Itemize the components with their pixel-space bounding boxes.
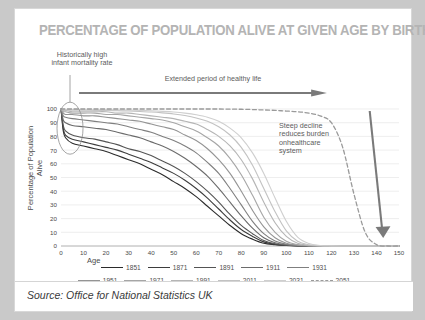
annotation-steep-decline: Steep decline reduces burden onhealthcar…	[279, 122, 341, 155]
legend-swatch	[148, 267, 170, 268]
legend-label: 1871	[173, 264, 188, 271]
y-axis-tick: 10	[50, 229, 57, 236]
y-axis-tick: 100	[47, 105, 58, 112]
screenshot-root: PERCENTAGE OF POPULATION ALIVE AT GIVEN …	[0, 0, 425, 320]
x-axis-tick: 0	[59, 249, 63, 256]
legend-swatch	[101, 267, 123, 268]
x-axis-tick: 20	[103, 249, 110, 256]
legend-item-1911[interactable]: 1911	[241, 264, 280, 271]
y-axis-tick: 70	[50, 147, 57, 154]
x-axis-tick: 90	[260, 249, 267, 256]
legend-row: 18511871189119111931	[15, 261, 413, 274]
legend-label: 1931	[312, 264, 327, 271]
y-axis-label: Percentage of Population Alive	[26, 120, 44, 216]
x-axis-tick: 40	[148, 249, 155, 256]
legend-item-1851[interactable]: 1851	[101, 264, 141, 271]
legend-swatch	[241, 267, 263, 268]
x-axis-tick: 140	[371, 249, 382, 256]
legend-swatch	[287, 267, 309, 268]
legend-item-1891[interactable]: 1891	[194, 264, 234, 271]
x-axis-tick: 150	[394, 249, 405, 256]
y-axis-tick: 50	[50, 174, 57, 181]
legend-swatch	[194, 267, 216, 268]
x-axis-tick: 70	[215, 249, 222, 256]
x-axis-tick: 120	[326, 249, 337, 256]
y-axis-tick: 0	[54, 242, 58, 249]
x-axis-tick: 10	[80, 249, 87, 256]
x-axis-tick: 60	[193, 249, 200, 256]
source-text: Source: Office for National Statistics U…	[27, 289, 213, 301]
annotation-healthy-life: Extended period of healthy life	[143, 75, 283, 83]
x-axis-tick: 30	[125, 249, 132, 256]
x-axis-tick: 80	[238, 249, 245, 256]
y-axis-tick: 60	[50, 160, 57, 167]
healthy-life-arrow	[79, 90, 327, 97]
y-axis-tick: 20	[50, 215, 57, 222]
legend-item-1871[interactable]: 1871	[148, 264, 188, 271]
y-axis-tick: 30	[50, 201, 57, 208]
x-axis-tick: 50	[170, 249, 177, 256]
y-axis-tick: 80	[50, 133, 57, 140]
chart-card: PERCENTAGE OF POPULATION ALIVE AT GIVEN …	[14, 8, 412, 312]
legend-label: 1851	[126, 264, 141, 271]
annotation-infant-mortality: Historically high infant mortality rate	[51, 51, 113, 68]
x-axis-tick: 110	[304, 249, 314, 256]
legend-item-1931[interactable]: 1931	[287, 264, 327, 271]
x-axis-tick: 130	[349, 249, 360, 256]
y-axis-tick: 40	[50, 188, 57, 195]
legend-label: 1891	[219, 264, 234, 271]
source-bar: Source: Office for National Statistics U…	[15, 281, 413, 311]
y-axis-tick: 90	[50, 119, 57, 126]
legend-label: 1911	[266, 264, 280, 271]
x-axis-tick: 100	[281, 249, 292, 256]
